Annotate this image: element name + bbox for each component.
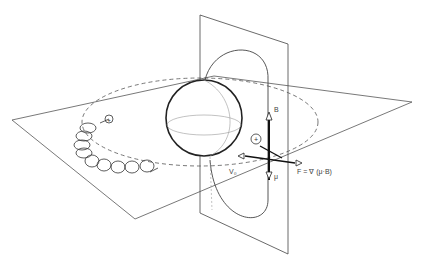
v0-label: V₀ [229,168,237,175]
force-equation-label: F = ∇ (μ·B) [297,168,332,176]
b-label: B [274,106,279,113]
svg-text:+: + [254,136,258,143]
magnetic-mirror-diagram: + + [0,0,423,267]
x-arrow-right-icon [296,160,302,166]
svg-text:+: + [107,117,111,123]
helical-particle-trajectory [74,119,158,173]
mu-label: μ [274,173,278,180]
